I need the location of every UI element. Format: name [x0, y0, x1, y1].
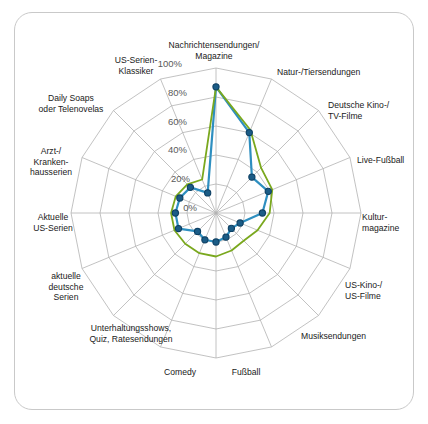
- radar-chart-svg: 100%80%60%40%20%0% Nachrichtensendungen/…: [0, 0, 428, 424]
- radar-chart: 100%80%60%40%20%0% Nachrichtensendungen/…: [0, 0, 428, 424]
- category-labels: Nachrichtensendungen/MagazineNatur-/Tier…: [30, 40, 404, 377]
- data-point-marker: [237, 220, 243, 226]
- data-point-marker: [249, 174, 255, 180]
- data-point-marker: [172, 210, 178, 216]
- cat-deutsche-kino: Deutsche Kino-/TV-Filme: [328, 100, 390, 121]
- cat-daily-soaps: Daily Soapsoder Telenovelas: [39, 93, 104, 114]
- cat-live-fussball: Live-Fußball: [357, 155, 404, 165]
- cat-natur: Natur-/Tiersendungen: [277, 67, 360, 77]
- radial-tick-label-60pct: 60%: [168, 116, 188, 127]
- cat-us-kino: US-Kino-/US-Filme: [345, 280, 383, 301]
- radial-tick-label-20pct: 20%: [171, 173, 191, 184]
- data-point-marker: [265, 188, 271, 194]
- grid-spoke-5: [216, 213, 350, 268]
- cat-comedy: Comedy: [164, 367, 197, 377]
- data-point-marker: [213, 239, 219, 245]
- data-point-marker: [177, 195, 183, 201]
- data-point-marker: [246, 130, 252, 136]
- grid-spoke-11: [82, 213, 216, 268]
- data-point-marker: [213, 84, 219, 90]
- cat-arzt-krankenhausserien: Arzt-/Kranken-hausserien: [30, 146, 72, 177]
- radar-markers: [172, 84, 271, 245]
- data-point-marker: [205, 190, 211, 196]
- grid-spoke-10: [113, 213, 216, 316]
- data-point-marker: [187, 184, 193, 190]
- cat-aktuelle-us-serien: AktuelleUS-Serien: [33, 212, 73, 233]
- radial-tick-label-40pct: 40%: [168, 144, 188, 155]
- cat-fussball: Fußball: [232, 367, 261, 377]
- data-point-marker: [223, 234, 229, 240]
- radial-tick-label-80pct: 80%: [168, 87, 188, 98]
- data-point-marker: [175, 225, 181, 231]
- cat-unterhaltungsshows: Unterhaltungsshows,Quiz, Ratesendungen: [89, 323, 172, 344]
- grid-spoke-7: [216, 213, 271, 347]
- data-point-marker: [259, 210, 265, 216]
- cat-us-serien-klassiker: US-Serien-Klassiker: [115, 55, 158, 76]
- cat-aktuelle-deutsche-serien: aktuelledeutscheSerien: [49, 271, 84, 302]
- data-point-marker: [228, 225, 234, 231]
- cat-kulturmagazine: Kultur-magazine: [362, 212, 399, 233]
- data-point-marker: [202, 237, 208, 243]
- grid-spoke-14: [113, 110, 216, 213]
- radial-tick-label-100pct: 100%: [158, 58, 183, 69]
- radial-tick-label-0pct: 0%: [183, 202, 197, 213]
- cat-musiksendungen: Musiksendungen: [301, 331, 366, 341]
- cat-nachrichten: Nachrichtensendungen/Magazine: [169, 40, 260, 61]
- data-point-marker: [194, 228, 200, 234]
- radar-spokes: [71, 68, 361, 358]
- grid-spoke-3: [216, 158, 350, 213]
